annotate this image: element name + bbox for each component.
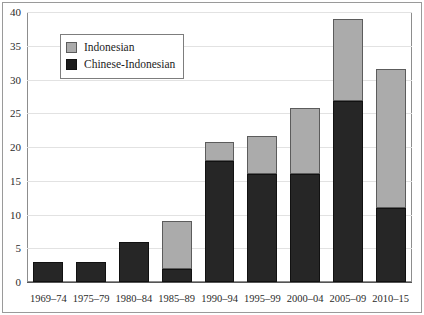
legend-item-indonesian: Indonesian [66, 39, 175, 56]
bar-segment-chinese-indonesian [76, 262, 106, 282]
bar-segment-indonesian [290, 108, 320, 174]
legend-swatch-icon-indonesian [66, 42, 77, 53]
bar-segment-chinese-indonesian [376, 208, 406, 282]
y-tick-label: 35 [10, 40, 21, 51]
bar-segment-chinese-indonesian [205, 161, 235, 283]
x-tick-label: 1980–84 [116, 294, 153, 305]
legend-item-chinese-indonesian: Chinese-Indonesian [66, 56, 175, 73]
gridline-0 [27, 282, 412, 283]
bar-segment-chinese-indonesian [33, 262, 63, 282]
x-tick-label: 1975–79 [73, 294, 110, 305]
chart-legend: Indonesian Chinese-Indonesian [60, 34, 184, 79]
y-tick-label: 30 [10, 74, 21, 85]
bar-group [333, 12, 363, 282]
x-axis-tick-labels: 1969–741975–791980–841985–891990–941995–… [27, 288, 412, 304]
bar-group [33, 12, 63, 282]
bar-group [205, 12, 235, 282]
bar-segment-indonesian [205, 142, 235, 160]
x-tick-label: 1990–94 [201, 294, 238, 305]
x-tick-label: 2005–09 [329, 294, 366, 305]
bar-segment-indonesian [247, 136, 277, 174]
bar-segment-indonesian [333, 19, 363, 101]
bar-segment-indonesian [376, 69, 406, 208]
y-tick-label: 40 [10, 7, 21, 18]
bar-group [247, 12, 277, 282]
bar-segment-chinese-indonesian [247, 174, 277, 282]
y-tick-label: 5 [16, 243, 22, 254]
bar-segment-indonesian [162, 221, 192, 268]
legend-label-indonesian: Indonesian [84, 42, 134, 54]
bar-segment-chinese-indonesian [162, 269, 192, 283]
y-tick-label: 10 [10, 209, 21, 220]
bar-segment-chinese-indonesian [290, 174, 320, 282]
bar-segment-chinese-indonesian [119, 242, 149, 283]
x-tick-label: 1995–99 [244, 294, 281, 305]
y-tick-label: 15 [10, 175, 21, 186]
chart-figure: 0510152025303540 1969–741975–791980–8419… [0, 0, 424, 315]
legend-swatch-icon-chinese-indonesian [66, 59, 77, 70]
x-tick-label: 1969–74 [30, 294, 67, 305]
y-tick-label: 20 [10, 142, 21, 153]
y-tick-label: 0 [16, 277, 22, 288]
x-tick-label: 2010–15 [372, 294, 409, 305]
x-tick-label: 2000–04 [287, 294, 324, 305]
x-tick-label: 1985–89 [158, 294, 195, 305]
y-tick-label: 25 [10, 108, 21, 119]
legend-label-chinese-indonesian: Chinese-Indonesian [84, 59, 175, 71]
bar-group [376, 12, 406, 282]
bar-group [290, 12, 320, 282]
bar-segment-chinese-indonesian [333, 101, 363, 282]
